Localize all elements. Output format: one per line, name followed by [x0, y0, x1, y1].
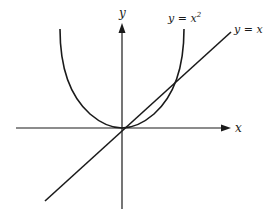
x-axis-arrow-icon — [221, 125, 231, 132]
line-label: y = x — [233, 23, 263, 36]
x-axis-label: x — [235, 121, 242, 135]
identity-line — [45, 32, 231, 201]
y-axis: y — [118, 6, 126, 209]
graph-figure: x y y = x2 y = x — [0, 0, 269, 224]
parabola-label: y = x2 — [167, 11, 202, 25]
y-axis-arrow-icon — [119, 23, 126, 33]
y-axis-label: y — [118, 6, 126, 20]
